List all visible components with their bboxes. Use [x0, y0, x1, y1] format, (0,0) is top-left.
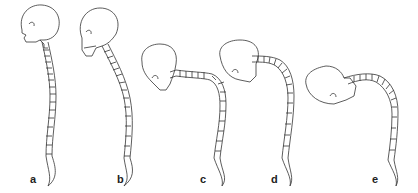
figure-a [21, 5, 59, 186]
figure-e [306, 66, 398, 186]
panel-label-a: a [30, 173, 36, 185]
figure-d [220, 40, 294, 186]
panel-label-e: e [372, 173, 378, 185]
figure-b [80, 8, 132, 186]
spine-posture-diagram: a b c d e [0, 0, 418, 193]
panel-label-c: c [200, 173, 206, 185]
figure-c [142, 44, 226, 186]
panel-label-d: d [271, 173, 278, 185]
diagram-canvas [0, 0, 418, 193]
panel-label-b: b [117, 173, 124, 185]
